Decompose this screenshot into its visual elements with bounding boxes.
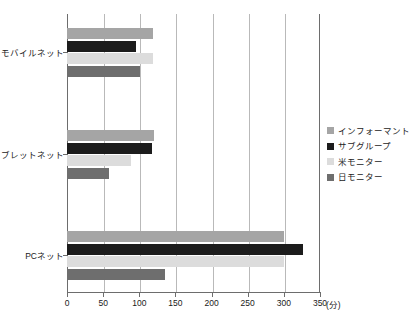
bar [67,155,131,166]
x-axis-tick [103,292,104,297]
category-label: モバイルネット [1,46,64,58]
legend-swatch-icon [327,158,334,165]
legend-item[interactable]: サブグループ [327,139,410,155]
legend-item[interactable]: インフォーマント [327,123,410,139]
bar [67,41,136,52]
x-axis-tick-label: 0 [65,298,70,308]
x-axis-tick-label: 100 [132,298,146,308]
legend-label: インフォーマント [338,127,410,136]
x-axis-tick-label: 300 [277,298,291,308]
bar [67,143,152,154]
bar [67,53,153,64]
category-label: タブレットネット [0,148,64,160]
category-label: PCネット [25,249,64,261]
x-axis-tick [139,292,140,297]
x-axis-tick [284,292,285,297]
x-axis-line [67,292,320,293]
x-axis-tick-label: 50 [98,298,107,308]
bar [67,231,284,242]
x-axis-unit-label: (分) [326,298,341,310]
x-axis-tick [212,292,213,297]
x-axis-tick [67,292,68,297]
legend-swatch-icon [327,174,334,181]
bar [67,269,165,280]
x-axis-tick-label: 250 [241,298,255,308]
x-axis-tick-label: 350 [313,298,327,308]
bar [67,256,284,267]
legend-item[interactable]: 日モニター [327,170,410,186]
category-tick [63,52,67,53]
category-tick [63,255,67,256]
x-axis-tick [320,292,321,297]
bar [67,28,153,39]
legend-label: サブグループ [338,142,391,151]
bar [67,66,140,77]
x-axis-tick-label: 200 [204,298,218,308]
legend-item[interactable]: 米モニター [327,154,410,170]
bar [67,130,154,141]
x-axis-tick [175,292,176,297]
legend: インフォーマントサブグループ米モニター日モニター [327,123,410,185]
bar [67,244,303,255]
bar [67,168,109,179]
legend-label: 日モニター [338,173,383,182]
legend-swatch-icon [327,127,334,134]
legend-label: 米モニター [338,158,383,167]
x-axis-tick [248,292,249,297]
legend-swatch-icon [327,143,334,150]
category-tick [63,154,67,155]
x-axis-tick-label: 150 [168,298,182,308]
